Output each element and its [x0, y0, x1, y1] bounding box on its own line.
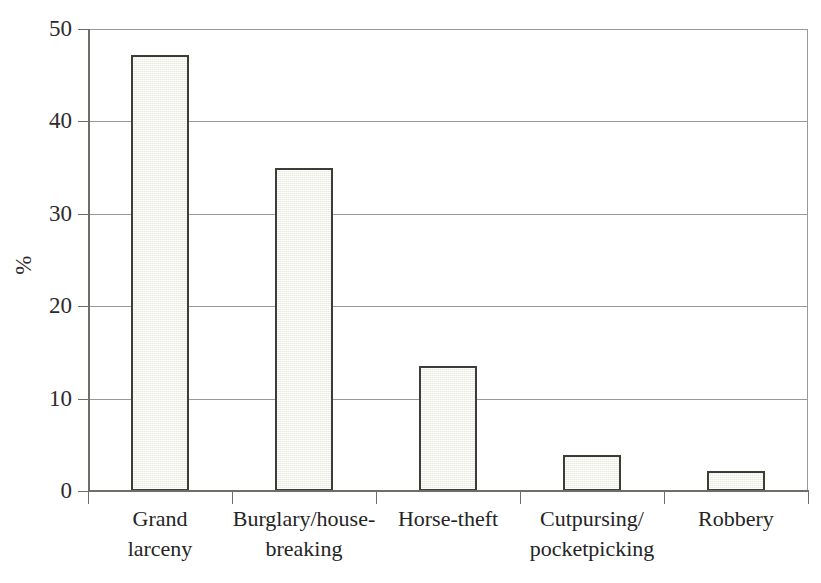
x-axis-category-label: Burglary/house-breaking — [232, 504, 376, 564]
x-axis-line — [88, 490, 809, 492]
x-axis-tick-mark — [520, 492, 521, 504]
category-label-line-1: Cutpursing/ — [540, 506, 644, 531]
x-axis-tick-mark — [88, 492, 89, 504]
gridline — [88, 214, 808, 215]
x-axis-tick-mark — [232, 492, 233, 504]
y-axis-tick-label: 40 — [28, 109, 72, 132]
bar — [275, 168, 333, 491]
x-axis-category-label: Grandlarceny — [88, 504, 232, 564]
plot-area — [88, 29, 808, 491]
x-axis-tick-mark — [664, 492, 665, 504]
y-axis-tick-label: 50 — [28, 17, 72, 40]
y-axis-tick-label: 0 — [28, 479, 72, 502]
bar — [131, 55, 189, 491]
y-axis-tick-labels: 50403020100 — [28, 0, 72, 583]
category-label-line-1: Grand — [133, 506, 188, 531]
bar — [707, 471, 765, 491]
category-label-line-2: larceny — [88, 534, 232, 564]
y-axis-tick-label: 10 — [28, 387, 72, 410]
bar — [419, 366, 477, 491]
category-label-line-1: Horse-theft — [398, 506, 498, 531]
x-axis-tick-mark — [376, 492, 377, 504]
plot-right-border — [807, 29, 808, 491]
x-axis-category-labels: GrandlarcenyBurglary/house-breakingHorse… — [88, 504, 808, 583]
y-axis-tick-label: 30 — [28, 202, 72, 225]
category-label-line-2: pocketpicking — [520, 534, 664, 564]
gridline — [88, 306, 808, 307]
x-axis-tick-mark — [808, 492, 809, 504]
x-axis-category-label: Horse-theft — [376, 504, 520, 534]
category-label-line-1: Burglary/house- — [233, 506, 376, 531]
bar-chart: % 50403020100 GrandlarcenyBurglary/house… — [0, 0, 821, 583]
y-axis-line — [88, 29, 90, 491]
category-label-line-2: breaking — [232, 534, 376, 564]
y-axis-tick-label: 20 — [28, 294, 72, 317]
bar — [563, 455, 621, 491]
gridline — [88, 29, 808, 30]
gridline — [88, 121, 808, 122]
x-axis-category-label: Cutpursing/pocketpicking — [520, 504, 664, 564]
x-axis-category-label: Robbery — [664, 504, 808, 534]
category-label-line-1: Robbery — [698, 506, 774, 531]
